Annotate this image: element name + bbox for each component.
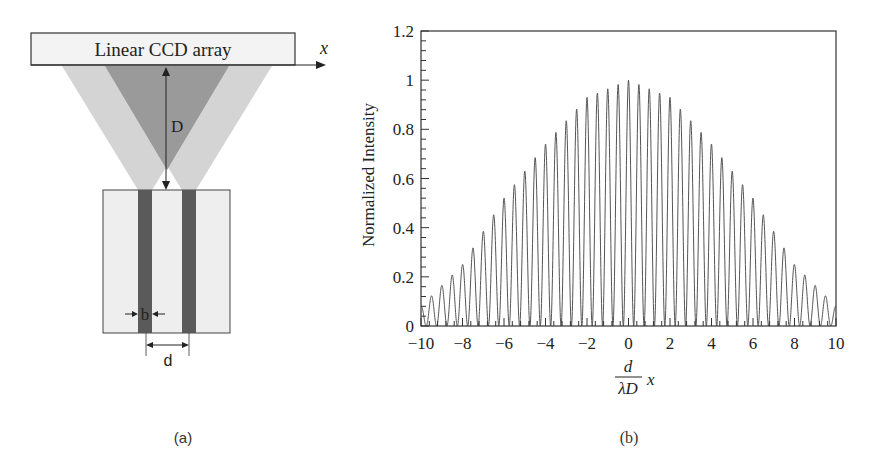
slit-2 (182, 190, 196, 333)
panel-a-diagram: Linear CCD array x D b d (a) (31, 33, 328, 446)
plot-frame (421, 31, 836, 326)
x-label-denominator: λD (617, 379, 638, 398)
panel-a-caption: (a) (174, 429, 192, 446)
x-tick-label: 2 (666, 334, 675, 353)
distance-label: D (171, 117, 183, 136)
x-tick-label: 4 (707, 334, 716, 353)
separation-arrowhead-left (146, 342, 153, 348)
ccd-label: Linear CCD array (94, 39, 232, 60)
x-label-numerator: d (624, 357, 633, 376)
panel-b-caption: (b) (620, 429, 639, 447)
slit-width-label: b (141, 305, 150, 324)
separation-label: d (164, 352, 173, 369)
x-tick-label: −6 (495, 334, 513, 353)
x-tick-label: −2 (578, 334, 596, 353)
panel-b-chart: 00.20.40.60.811.2−10−8−6−4−20246810 Norm… (359, 22, 845, 447)
x-axis-label: x (319, 38, 328, 58)
separation-arrowhead-right (182, 342, 189, 348)
x-tick-label: 8 (790, 334, 799, 353)
intensity-curve (421, 80, 836, 326)
x-tick-label: 0 (624, 334, 633, 353)
x-tick-label: −4 (536, 334, 555, 353)
x-label-variable: x (646, 370, 655, 389)
y-axis-label: Normalized Intensity (359, 103, 378, 247)
y-tick-label: 1 (406, 71, 415, 90)
y-tick-label: 0.6 (393, 170, 414, 189)
x-tick-label: 10 (828, 334, 845, 353)
x-tick-label: 6 (749, 334, 758, 353)
x-tick-label: −10 (408, 334, 435, 353)
figure: Linear CCD array x D b d (a) 00.20.40.60 (0, 0, 880, 472)
x-axis-arrowhead (316, 61, 326, 69)
y-tick-label: 0.4 (393, 219, 415, 238)
x-tick-label: −8 (453, 334, 471, 353)
y-tick-label: 1.2 (393, 22, 414, 41)
y-tick-label: 0.2 (393, 268, 414, 287)
distance-arrowhead-bottom (162, 181, 170, 190)
slit-plate (103, 190, 230, 333)
intensity-line (421, 80, 836, 326)
y-tick-label: 0.8 (393, 120, 414, 139)
